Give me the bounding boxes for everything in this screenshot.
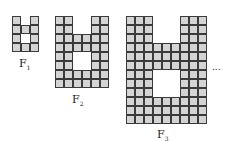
grid-cell <box>144 115 153 124</box>
grid-cell <box>91 25 100 34</box>
grid-cell <box>135 16 144 25</box>
figure-label-f3: F3 <box>157 128 168 141</box>
grid-cell <box>198 115 207 124</box>
grid-cell <box>153 43 162 52</box>
grid-cell <box>189 34 198 43</box>
grid-cell <box>144 97 153 106</box>
grid-cell <box>135 88 144 97</box>
grid-cell <box>55 79 64 88</box>
grid-cell <box>21 25 30 34</box>
grid-cell <box>82 70 91 79</box>
grid-cell <box>180 25 189 34</box>
grid-cell <box>198 34 207 43</box>
grid-cell <box>135 115 144 124</box>
grid-cell <box>73 79 82 88</box>
grid-cell <box>180 79 189 88</box>
grid-cell <box>126 106 135 115</box>
grid-cell <box>55 16 64 25</box>
grid-cell <box>162 52 171 61</box>
grid-cell <box>126 34 135 43</box>
grid-cell <box>144 52 153 61</box>
grid-cell <box>91 61 100 70</box>
grid-cell <box>153 115 162 124</box>
grid-cell <box>82 34 91 43</box>
grid-cell <box>82 79 91 88</box>
grid-cell <box>162 61 171 70</box>
grid-cell <box>189 43 198 52</box>
grid-cell <box>144 25 153 34</box>
grid-cell <box>82 43 91 52</box>
grid-cell <box>55 61 64 70</box>
grid-cell <box>180 97 189 106</box>
grid-cell <box>126 52 135 61</box>
grid-cell <box>180 106 189 115</box>
grid-cell <box>198 43 207 52</box>
figure-label-f2: F2 <box>72 93 83 107</box>
grid-cell <box>91 52 100 61</box>
grid-cell <box>198 88 207 97</box>
grid-cell <box>144 34 153 43</box>
grid-cell <box>153 52 162 61</box>
grid-cell <box>162 115 171 124</box>
grid-cell <box>12 16 21 25</box>
grid-cell <box>55 25 64 34</box>
grid-cell <box>91 79 100 88</box>
grid-cell <box>189 70 198 79</box>
grid-cell <box>144 43 153 52</box>
grid-cell <box>135 61 144 70</box>
grid-cell <box>180 43 189 52</box>
grid-cell <box>73 34 82 43</box>
grid-cell <box>180 88 189 97</box>
grid-cell <box>153 97 162 106</box>
grid-cell <box>144 79 153 88</box>
grid-cell <box>189 52 198 61</box>
grid-cell <box>189 25 198 34</box>
grid-cell <box>100 52 109 61</box>
grid-cell <box>64 25 73 34</box>
grid-cell <box>30 16 39 25</box>
grid-cell <box>55 43 64 52</box>
grid-cell <box>12 34 21 43</box>
grid-cell <box>100 79 109 88</box>
grid-cell <box>180 52 189 61</box>
grid-cell <box>100 25 109 34</box>
grid-cell <box>162 97 171 106</box>
grid-cell <box>171 43 180 52</box>
grid-cell <box>64 79 73 88</box>
grid-cell <box>135 52 144 61</box>
grid-cell <box>198 106 207 115</box>
grid-cell <box>91 70 100 79</box>
grid-cell <box>189 115 198 124</box>
grid-cell <box>126 115 135 124</box>
grid-cell <box>162 43 171 52</box>
grid-cell <box>91 34 100 43</box>
grid-cell <box>126 88 135 97</box>
grid-cell <box>189 88 198 97</box>
grid-cell <box>198 97 207 106</box>
grid-cell <box>55 52 64 61</box>
grid-cell <box>189 16 198 25</box>
grid-cell <box>126 43 135 52</box>
grid-cell <box>100 61 109 70</box>
grid-cell <box>64 61 73 70</box>
grid-cell <box>171 52 180 61</box>
grid-cell <box>198 61 207 70</box>
grid-cell <box>55 70 64 79</box>
grid-cell <box>64 52 73 61</box>
grid-cell <box>153 106 162 115</box>
grid-cell <box>135 43 144 52</box>
grid-cell <box>198 79 207 88</box>
grid-cell <box>135 25 144 34</box>
grid-cell <box>91 16 100 25</box>
grid-cell <box>100 70 109 79</box>
grid-cell <box>180 61 189 70</box>
grid-cell <box>144 70 153 79</box>
grid-cell <box>198 70 207 79</box>
grid-cell <box>126 97 135 106</box>
grid-cell <box>189 61 198 70</box>
grid-cell <box>144 88 153 97</box>
grid-cell <box>126 79 135 88</box>
grid-cell <box>171 115 180 124</box>
grid-cell <box>180 34 189 43</box>
grid-cell <box>171 61 180 70</box>
